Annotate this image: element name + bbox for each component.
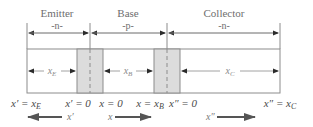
base-title: Base bbox=[117, 7, 139, 19]
emitter-type: -n- bbox=[51, 20, 63, 31]
base-type: -p- bbox=[122, 20, 134, 31]
collector-title: Collector bbox=[204, 7, 245, 19]
emitter-title: Emitter bbox=[41, 7, 74, 19]
coord-x-zero: x = 0 bbox=[98, 97, 123, 109]
coord-x-xb: x = xB bbox=[135, 97, 164, 111]
coord-xdouble-zero: x″ = 0 bbox=[168, 97, 197, 109]
coord-xprime-zero: x′ = 0 bbox=[64, 97, 91, 109]
collector-type: -n- bbox=[218, 20, 230, 31]
coord-xprime-xe: x′ = xE bbox=[10, 97, 41, 111]
coord-xdouble-xc: x″ = xC bbox=[263, 97, 297, 111]
bjt-geometry-diagram: Emitter -n- Base -p- Collector -n- xE xB… bbox=[0, 0, 313, 127]
xprime-axis-label: x′ bbox=[66, 111, 74, 122]
region-boundary-ticks bbox=[27, 23, 280, 49]
xdouble-axis-label: x″ bbox=[205, 111, 215, 122]
x-axis-label: x bbox=[107, 111, 113, 122]
